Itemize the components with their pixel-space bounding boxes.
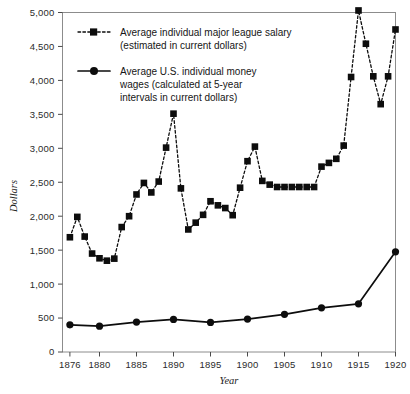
data-point-marker [133,319,140,326]
data-point-marker [296,184,303,191]
y-tick-label: 4,500 [30,41,55,52]
legend-swatch-wages-marker [90,67,98,75]
data-point-marker [281,311,288,318]
data-point-marker [355,300,362,307]
y-axis-title: Dollars [8,180,19,213]
data-point-marker [222,205,229,212]
y-tick-label: 500 [38,312,54,323]
data-point-marker [281,184,288,191]
x-tick-label: 1910 [311,359,333,370]
salary-wages-line-chart: 05001,0001,5002,0002,5003,0003,5004,0004… [0,0,410,394]
data-point-marker [200,212,207,219]
data-point-marker [303,184,310,191]
data-point-marker [67,234,74,241]
data-point-marker [118,224,125,231]
data-point-marker [237,184,244,191]
data-point-marker [289,184,296,191]
data-point-marker [192,219,199,226]
data-point-marker [333,156,340,163]
data-point-marker [81,233,88,240]
x-tick-label: 1876 [59,359,81,370]
x-tick-label: 1885 [126,359,148,370]
data-point-marker [155,178,162,185]
data-point-marker [141,180,148,187]
data-point-marker [96,255,103,262]
data-point-marker [355,7,362,14]
chart-background [0,0,410,394]
data-point-marker [89,250,96,257]
y-tick-label: 1,500 [30,245,55,256]
data-point-marker [392,248,399,255]
x-axis-title: Year [220,375,240,386]
legend-label-wages-line2: wages (calculated at 5-year [119,79,243,90]
data-point-marker [74,214,81,221]
legend-label-salary-line1: Average individual major league salary [120,27,292,38]
data-point-marker [318,304,325,311]
data-point-marker [170,316,177,323]
x-tick-label: 1905 [274,359,296,370]
data-point-marker [348,74,355,81]
data-point-marker [207,198,214,205]
y-tick-label: 3,000 [30,143,55,154]
x-tick-label: 1890 [163,359,185,370]
legend-label-wages-line3: intervals in current dollars) [120,92,237,103]
data-point-marker [178,185,185,192]
data-point-marker [326,160,333,167]
x-tick-label: 1915 [348,359,370,370]
data-point-marker [252,143,259,150]
data-point-marker [266,181,273,188]
data-point-marker [185,226,192,233]
data-point-marker [244,315,251,322]
data-point-marker [259,178,266,185]
data-point-marker [207,319,214,326]
y-tick-label: 1,000 [30,279,55,290]
data-point-marker [229,212,236,219]
x-tick-label: 1900 [237,359,259,370]
x-tick-label: 1880 [89,359,111,370]
data-point-marker [363,40,370,47]
data-point-marker [340,142,347,149]
chart-svg: 05001,0001,5002,0002,5003,0003,5004,0004… [0,0,410,394]
y-tick-label: 5,000 [30,7,55,18]
data-point-marker [392,26,399,33]
data-point-marker [163,144,170,151]
legend-swatch-salary-marker [90,28,97,35]
data-point-marker [111,255,118,262]
data-point-marker [66,321,73,328]
data-point-marker [170,110,177,117]
data-point-marker [370,73,377,80]
data-point-marker [244,158,251,165]
legend-label-wages-line1: Average U.S. individual money [120,66,257,77]
x-tick-label: 1895 [200,359,222,370]
y-tick-label: 0 [49,346,54,357]
data-point-marker [318,163,325,170]
y-tick-label: 3,500 [30,109,55,120]
y-tick-label: 2,500 [30,177,55,188]
data-point-marker [311,184,318,191]
data-point-marker [126,213,133,220]
data-point-marker [96,323,103,330]
data-point-marker [148,189,155,196]
data-point-marker [133,191,140,198]
data-point-marker [385,73,392,80]
x-tick-label: 1920 [385,359,407,370]
legend-label-salary-line2: (estimated in current dollars) [120,40,247,51]
data-point-marker [215,202,222,209]
data-point-marker [377,101,384,108]
y-tick-label: 4,000 [30,75,55,86]
y-tick-label: 2,000 [30,211,55,222]
data-point-marker [274,184,281,191]
data-point-marker [104,257,111,264]
